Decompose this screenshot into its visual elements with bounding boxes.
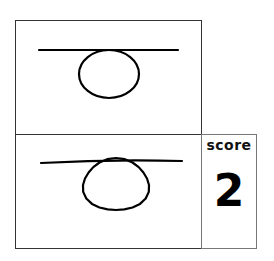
copy-drawing: [41, 158, 182, 210]
reference-drawing: [39, 50, 178, 98]
copy-line: [41, 160, 182, 163]
reference-ellipse: [79, 50, 139, 98]
drawings-layer: [0, 0, 274, 261]
copy-ellipse: [83, 158, 149, 210]
